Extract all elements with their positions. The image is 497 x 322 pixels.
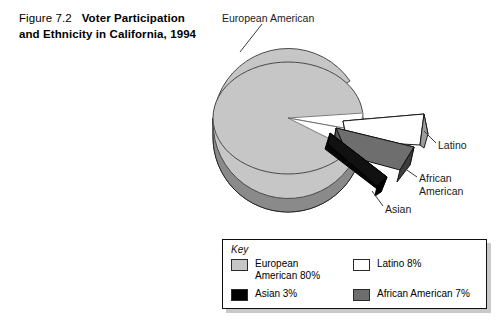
legend: Key European American 80% Latino 8% Asia… [222, 239, 487, 309]
pie-label-african-american: African American [419, 172, 463, 197]
legend-item-latino: Latino 8% [353, 258, 479, 281]
leader-line-african-american [404, 168, 417, 177]
legend-item-european-american: European American 80% [231, 258, 353, 281]
legend-label-asian: Asian 3% [255, 288, 297, 300]
legend-swatch-european-american [231, 259, 248, 271]
legend-label-european-american: European American 80% [255, 258, 320, 281]
legend-swatch-asian [231, 289, 248, 301]
legend-swatch-african-american [353, 289, 370, 301]
legend-item-african-american: African American 7% [353, 288, 479, 301]
pie-label-latino: Latino [438, 139, 467, 152]
legend-label-african-american: African American 7% [377, 288, 470, 300]
pie-chart: European American Latino African America… [0, 0, 497, 240]
pie-label-european-american: European American [222, 12, 314, 25]
legend-item-asian: Asian 3% [231, 288, 353, 301]
legend-items: European American 80% Latino 8% Asian 3%… [231, 258, 479, 301]
pie-label-asian: Asian [385, 203, 411, 216]
legend-title: Key [231, 244, 248, 255]
legend-swatch-latino [353, 259, 370, 271]
pie-chart-graphic [0, 0, 497, 240]
legend-label-latino: Latino 8% [377, 258, 421, 270]
leader-line-european-american [240, 24, 262, 52]
